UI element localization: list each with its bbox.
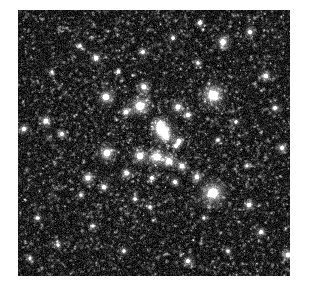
- starfield-frame: [18, 10, 290, 276]
- starfield-image: [18, 10, 290, 276]
- image-viewer-root: [0, 0, 309, 289]
